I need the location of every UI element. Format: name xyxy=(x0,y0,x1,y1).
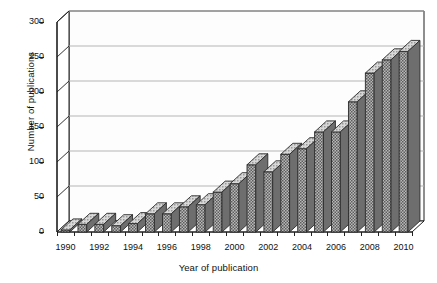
publications-bar-chart: Number of publications Year of publicati… xyxy=(0,0,437,283)
bar-face xyxy=(264,172,273,232)
bar-face xyxy=(315,132,324,232)
bar-face xyxy=(78,224,87,232)
bar-face xyxy=(230,184,239,232)
bar-face xyxy=(281,154,290,232)
bar-face xyxy=(179,207,188,232)
bar-face xyxy=(332,132,341,232)
bar-face xyxy=(146,214,155,232)
bar-face xyxy=(196,205,205,232)
bar-face xyxy=(298,149,307,232)
bar-face xyxy=(365,73,374,232)
plot-area xyxy=(0,0,437,283)
bar-face xyxy=(348,102,357,232)
bar[interactable] xyxy=(399,40,420,232)
bar-face xyxy=(382,60,391,232)
bar-face xyxy=(95,224,104,232)
bar-face xyxy=(399,51,408,232)
bar-face xyxy=(162,214,171,232)
bar-face xyxy=(129,224,138,232)
bar-side xyxy=(408,40,420,232)
bar-face xyxy=(112,226,121,232)
bar-face xyxy=(213,192,222,232)
bar-face xyxy=(247,165,256,232)
